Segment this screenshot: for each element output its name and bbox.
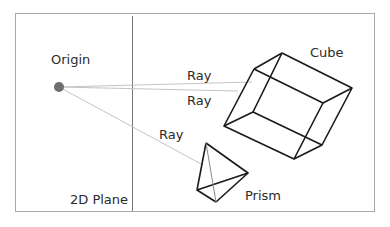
ray-label-3: Ray (159, 128, 183, 141)
ray-label-1: Ray (187, 69, 211, 82)
cube-wireframe (224, 53, 352, 159)
plane-label: 2D Plane (70, 193, 128, 206)
prism-wireframe (197, 143, 248, 202)
ray-label-2: Ray (187, 94, 211, 107)
ray-line-2 (59, 87, 238, 91)
origin-label: Origin (51, 53, 90, 66)
origin-point (54, 82, 64, 92)
ray-line-1 (59, 82, 252, 87)
cube-label: Cube (310, 46, 344, 59)
diagram-canvas (0, 0, 390, 227)
prism-label: Prism (245, 189, 281, 202)
diagram-frame (16, 14, 375, 212)
prism-hidden-edge (206, 143, 216, 202)
ray-line-3 (59, 87, 203, 165)
